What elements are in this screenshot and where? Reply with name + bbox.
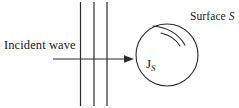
surface-label-symbol: S bbox=[229, 10, 235, 22]
surface-current-subscript: S bbox=[151, 63, 156, 73]
propagation-arrow-head bbox=[124, 55, 134, 63]
wavefront-lines bbox=[81, 2, 108, 106]
surface-current-label: JS bbox=[146, 57, 156, 73]
incident-wave-label: Incident wave bbox=[4, 39, 76, 52]
scatterer-surface-circle bbox=[136, 24, 198, 86]
surface-current-arcs bbox=[153, 26, 185, 46]
incident-wave-scattering-figure: Incident wave Surface S JS bbox=[0, 0, 239, 108]
surface-label-word: Surface bbox=[190, 10, 226, 22]
surface-label: Surface S bbox=[190, 11, 235, 23]
